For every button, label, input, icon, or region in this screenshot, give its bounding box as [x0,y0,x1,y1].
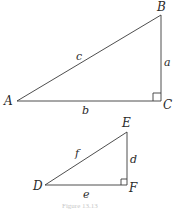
vertex-label-e: E [121,116,131,130]
triangle-abc: A B C a b c [3,0,172,117]
right-angle-marker-f [121,179,127,185]
similar-right-triangles-diagram: A B C a b c D E F d e f Figure 13.13 [0,0,175,209]
vertex-label-c: C [163,98,172,112]
vertex-label-b: B [156,0,166,14]
figure-caption: Figure 13.13 [62,202,98,209]
side-label-c: c [76,50,82,63]
side-label-e: e [83,188,90,201]
side-f-hypotenuse-line [45,132,127,185]
vertex-label-d: D [32,179,43,193]
side-label-b: b [82,104,89,117]
side-label-f: f [74,147,81,160]
side-c-hypotenuse-line [17,15,161,101]
vertex-label-f: F [128,181,138,195]
side-label-a: a [164,56,171,69]
vertex-label-a: A [3,94,13,108]
side-label-d: d [130,153,137,166]
triangle-def: D E F d e f [32,116,138,201]
right-angle-marker-c [153,93,161,101]
